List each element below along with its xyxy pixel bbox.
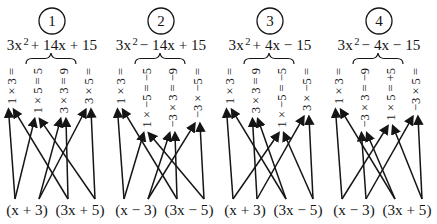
factoring-panel-3: 3 3x2+ 4x − 15 1 × 3 = 3 × 3 = 9 1 × −5 … (218, 0, 327, 224)
middle-terms-brace (244, 53, 294, 64)
factor-right: (3x − 5) (273, 201, 322, 219)
product-label: 1 × 3 = (114, 68, 128, 104)
product-label: 1 × −5 = −5 (140, 68, 154, 127)
product-label: 1 × 3 = (332, 68, 346, 104)
quadratic-expression: 3x2+ 14x + 15 (7, 36, 97, 53)
product-label: −3 × 5 = (409, 68, 423, 111)
factor-left: (x − 3) (115, 201, 156, 219)
factoring-panel-2: 2 3x2− 14x + 15 1 × 3 = 1 × −5 = −5 −3 ×… (109, 0, 218, 224)
problem-number: 1 (48, 13, 56, 29)
cross-multiplication-arrows (336, 110, 423, 199)
middle-terms-brace (353, 53, 403, 64)
cross-multiplication-arrows (118, 110, 205, 199)
product-label: 1 × 5 = +5 (384, 68, 398, 120)
factor-left: (x + 3) (224, 201, 265, 219)
problem-number: 2 (157, 13, 165, 29)
product-label: 3 × 3 = 9 (57, 68, 71, 113)
product-label: 3 × 5 = (82, 68, 96, 104)
quadratic-expression: 3x2+ 4x − 15 (229, 36, 312, 53)
product-label: 3 × 3 = 9 (249, 68, 263, 113)
factor-right: (3x + 5) (382, 201, 431, 219)
cross-multiplication-arrows (227, 110, 314, 199)
factor-left: (x − 3) (333, 201, 374, 219)
quadratic-expression: 3x2− 14x + 15 (116, 36, 206, 53)
factor-left: (x + 3) (6, 201, 47, 219)
product-label: 1 × 3 = (223, 68, 237, 104)
cross-multiplication-arrows (9, 110, 96, 199)
product-label: 1 × 5 = 5 (31, 68, 45, 113)
product-label: 3 × −5 = (300, 68, 314, 111)
middle-terms-brace (26, 53, 76, 64)
product-label: −3 × −5 = (191, 68, 205, 118)
product-label: 1 × 3 = (5, 68, 19, 104)
problem-number: 4 (375, 13, 383, 29)
factoring-panel-4: 4 3x2− 4x − 15 1 × 3 = −3 × 3 = −9 1 × 5… (327, 0, 436, 224)
product-label: 1 × −5 = −5 (275, 68, 289, 127)
product-label: −3 × 3 = −9 (166, 68, 180, 127)
factor-right: (3x − 5) (164, 201, 213, 219)
factor-right: (3x + 5) (55, 201, 104, 219)
problem-number: 3 (266, 13, 274, 29)
product-label: −3 × 3 = −9 (358, 68, 372, 127)
factoring-panel-1: 1 3x2+ 14x + 15 1 × 3 = 1 × 5 = 5 3 × 3 … (0, 0, 109, 224)
quadratic-expression: 3x2− 4x − 15 (338, 36, 421, 53)
middle-terms-brace (135, 53, 185, 64)
factoring-worksheet: 1 3x2+ 14x + 15 1 × 3 = 1 × 5 = 5 3 × 3 … (0, 0, 437, 224)
